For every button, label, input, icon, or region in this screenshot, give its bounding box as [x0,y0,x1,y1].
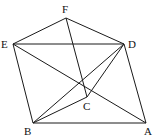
geometry-diagram: FEDCBA [0,0,158,139]
segment-fd [66,18,124,44]
segment-eb [13,44,33,123]
point-label-b: B [24,125,31,137]
point-label-f: F [62,3,68,15]
point-label-e: E [1,38,8,50]
edges-group [13,18,146,123]
segment-ea [13,44,146,123]
point-label-d: D [128,38,136,50]
segment-cb [33,97,87,123]
segment-da [124,44,146,123]
point-label-c: C [83,100,90,112]
point-label-a: A [144,125,152,137]
segment-dc [87,44,124,97]
segment-db [33,44,124,123]
segment-fe [13,18,66,44]
